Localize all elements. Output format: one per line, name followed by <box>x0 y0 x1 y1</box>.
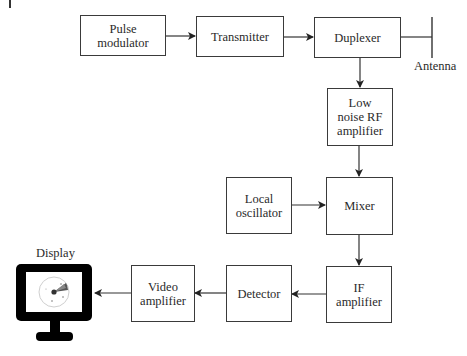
block-label: Transmitter <box>211 30 269 44</box>
block-video-amplifier: Video amplifier <box>131 265 195 322</box>
block-label: Detector <box>237 287 280 301</box>
block-label: Low noise RF amplifier <box>335 96 385 138</box>
block-label: Local oscillator <box>230 192 288 220</box>
block-transmitter: Transmitter <box>196 16 284 57</box>
block-duplexer: Duplexer <box>314 17 401 58</box>
block-label: Pulse modulator <box>93 22 153 50</box>
block-mixer: Mixer <box>326 177 393 235</box>
block-detector: Detector <box>226 265 292 322</box>
block-label: IF amplifier <box>332 281 386 309</box>
block-label: Mixer <box>344 199 375 213</box>
display-monitor-icon <box>16 264 92 341</box>
block-label: Duplexer <box>334 31 381 45</box>
block-pulse-modulator: Pulse modulator <box>80 15 166 56</box>
block-if-amplifier: IF amplifier <box>326 266 392 323</box>
block-low-noise-rf-amplifier: Low noise RF amplifier <box>327 88 393 146</box>
block-label: Video amplifier <box>136 280 190 308</box>
antenna-label: Antenna <box>414 59 456 73</box>
display-label: Display <box>36 246 75 260</box>
block-local-oscillator: Local oscillator <box>226 177 292 234</box>
